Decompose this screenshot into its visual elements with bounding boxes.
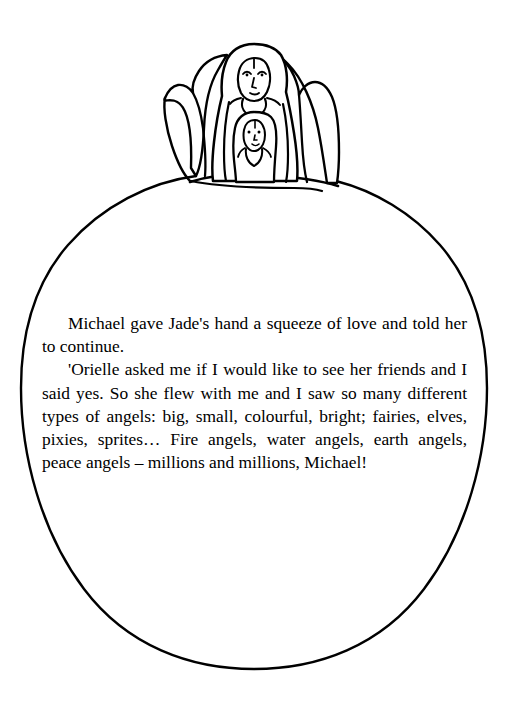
- angel-right-eye-icon: [258, 72, 266, 74]
- child-right-eye-icon: [258, 131, 261, 134]
- child-collar-left-edge: [238, 148, 245, 157]
- angel-left-eye-icon: [243, 72, 251, 74]
- angel-right-pupil-icon: [261, 74, 264, 77]
- body-text: Michael gave Jade's hand a squeeze of lo…: [42, 312, 467, 474]
- angel-collar: [242, 99, 266, 117]
- angel-robe-left-drape: [224, 102, 229, 181]
- angel-left-wing: [164, 55, 227, 176]
- child-collar-right-edge: [263, 148, 271, 157]
- book-page: Michael gave Jade's hand a squeeze of lo…: [0, 0, 509, 716]
- angel-robe: [212, 44, 297, 181]
- angel-collar-left-edge: [230, 98, 241, 104]
- angel-collar-right-edge: [267, 98, 280, 105]
- angel-nose-icon: [252, 78, 256, 88]
- child-mouth-icon: [252, 144, 259, 146]
- angel-left-wing-inner-fold: [193, 93, 205, 176]
- angel-right-wing-inner-fold: [299, 95, 307, 182]
- child-collar: [246, 149, 262, 166]
- paragraph-1: Michael gave Jade's hand a squeeze of lo…: [42, 312, 467, 358]
- angel-mouth-icon: [250, 93, 259, 95]
- child-left-eye-icon: [248, 131, 251, 134]
- angel-left-wing-outer-contour: [164, 98, 190, 181]
- angel-face: [238, 58, 270, 101]
- angel-left-pupil-icon: [246, 74, 249, 77]
- paragraph-2: 'Orielle asked me if I would like to see…: [42, 358, 467, 474]
- ground-line-secondary: [191, 181, 322, 191]
- child-robe: [233, 112, 276, 182]
- child-nose-icon: [254, 135, 257, 140]
- ground-line: [190, 174, 338, 186]
- child-face: [244, 120, 265, 151]
- angel-right-wing: [277, 56, 339, 183]
- angel-robe-right-drape: [283, 104, 288, 182]
